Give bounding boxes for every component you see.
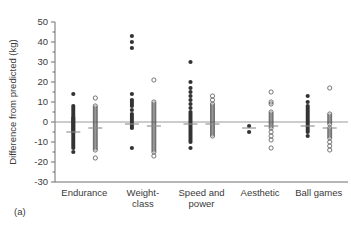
open-data-point [328,86,332,90]
closed-data-point [130,40,134,44]
x-category-label: Weight- [127,187,160,198]
closed-data-point [188,140,192,144]
open-data-point [328,144,332,148]
y-tick-label: 10 [37,96,48,107]
x-category-label: Speed and [179,187,225,198]
panel-label: (a) [14,206,26,217]
open-data-point [93,96,97,100]
series-group [125,34,139,150]
closed-data-point [130,92,134,96]
closed-data-point [71,146,75,150]
series-group [147,78,161,158]
series-group [66,92,80,154]
y-tick-label: -30 [34,176,48,187]
series-group [264,90,278,150]
open-data-point [269,138,273,142]
series-group [301,94,315,138]
closed-data-point [130,46,134,50]
y-tick-label: 40 [37,36,48,47]
closed-data-point [188,86,192,90]
scatter-plot: 50403020100-10-20-30EnduranceWeight-clas… [0,0,351,225]
open-data-point [152,154,156,158]
closed-data-point [306,130,310,134]
closed-data-point [188,106,192,110]
y-tick-label: -10 [34,136,48,147]
open-data-point [269,146,273,150]
closed-data-point [188,90,192,94]
closed-data-point [130,108,134,112]
series-group [323,86,337,152]
closed-data-point [188,94,192,98]
y-axis-title: Difference from predicted (kg) [7,39,18,165]
open-data-point [210,94,214,98]
series-group [184,60,198,150]
series-group [242,124,256,134]
closed-data-point [188,146,192,150]
x-category-label: Endurance [61,187,107,198]
closed-data-point [71,92,75,96]
closed-data-point [130,126,134,130]
closed-data-point [188,102,192,106]
open-data-point [93,156,97,160]
x-category-label: power [189,198,215,209]
y-tick-label: 30 [37,56,48,67]
x-category-label: Aesthetic [241,187,280,198]
series-group [88,96,102,160]
series-group [206,94,220,138]
open-data-point [269,134,273,138]
x-category-label: class [132,198,154,209]
open-data-point [152,78,156,82]
open-data-point [328,140,332,144]
open-data-point [210,98,214,102]
y-tick-label: 20 [37,76,48,87]
closed-data-point [247,130,251,134]
x-category-label: Ball games [295,187,342,198]
closed-data-point [188,60,192,64]
y-tick-label: -20 [34,156,48,167]
y-tick-label: 50 [37,16,48,27]
figure-panel: 50403020100-10-20-30EnduranceWeight-clas… [0,0,351,225]
closed-data-point [306,134,310,138]
closed-data-point [306,94,310,98]
closed-data-point [71,150,75,154]
closed-data-point [130,34,134,38]
open-data-point [328,148,332,152]
closed-data-point [188,98,192,102]
open-data-point [269,130,273,134]
closed-data-point [130,104,134,108]
closed-data-point [130,146,134,150]
closed-data-point [306,100,310,104]
y-tick-label: 0 [43,116,48,127]
open-data-point [269,90,273,94]
closed-data-point [188,80,192,84]
